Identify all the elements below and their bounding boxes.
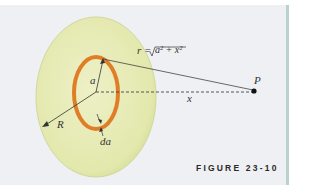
label-P: P — [254, 74, 261, 86]
point-P — [251, 88, 256, 93]
figure-caption: FIGURE 23-10 — [196, 163, 279, 173]
label-da: da — [100, 135, 111, 147]
disk — [36, 17, 156, 177]
r-equation-rhs: a² + x² — [155, 44, 182, 55]
label-x: x — [187, 92, 192, 104]
label-R: R — [57, 118, 64, 130]
r-equation-lhs: r = — [137, 44, 151, 56]
label-a: a — [90, 74, 96, 86]
